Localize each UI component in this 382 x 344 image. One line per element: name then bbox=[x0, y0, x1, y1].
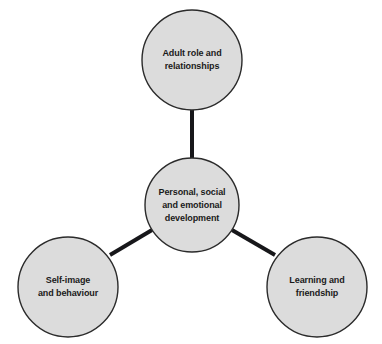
diagram-graphics bbox=[0, 0, 382, 344]
node-circle-self-image[interactable] bbox=[18, 237, 118, 337]
node-circle-learning[interactable] bbox=[267, 237, 367, 337]
connector-hub-to-learning bbox=[232, 230, 275, 255]
diagram-canvas: Adult role and relationships Personal, s… bbox=[0, 0, 382, 344]
node-circle-adult-role[interactable] bbox=[142, 10, 242, 110]
node-circle-hub[interactable] bbox=[145, 158, 239, 252]
connector-hub-to-self-image bbox=[110, 230, 152, 255]
